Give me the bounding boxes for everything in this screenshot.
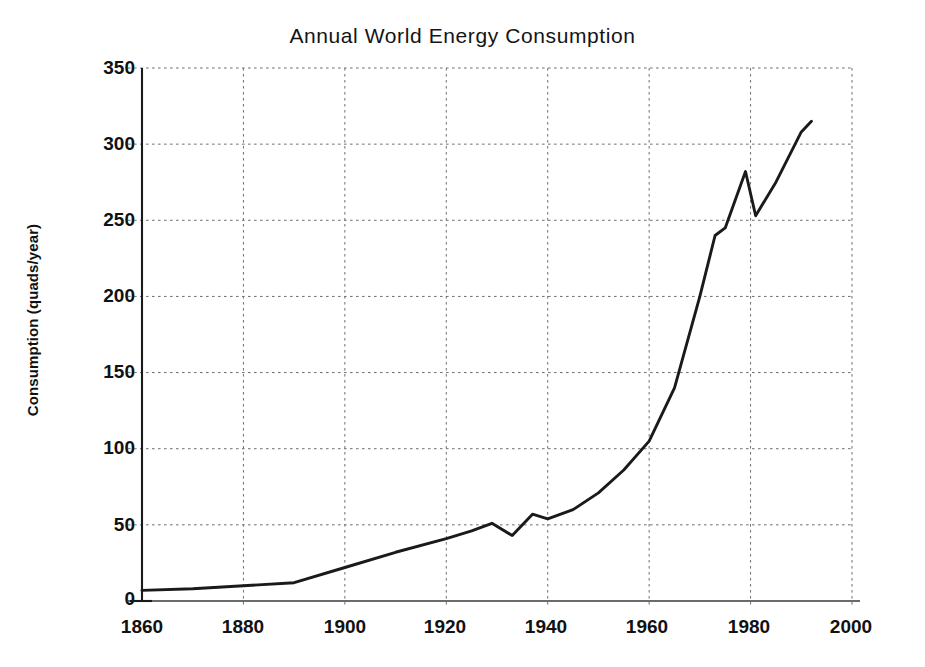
axis-lines bbox=[127, 68, 860, 601]
data-series-layer bbox=[142, 121, 811, 590]
chart-figure: Annual World Energy Consumption Consumpt… bbox=[0, 0, 925, 667]
plot-area bbox=[0, 0, 925, 667]
data-line-0 bbox=[142, 121, 811, 590]
